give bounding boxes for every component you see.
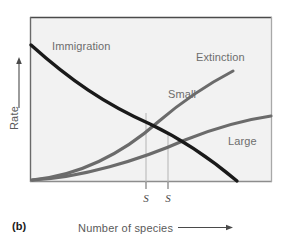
curve-label-immigration: Immigration [52, 40, 111, 52]
chart-canvas [0, 0, 289, 242]
x-axis-label: Number of species [78, 222, 173, 234]
panel-letter: (b) [12, 220, 26, 232]
figure-panel-b: Immigration Extinction Small Large S S R… [0, 0, 289, 242]
curve-label-extinction: Extinction [196, 51, 245, 63]
y-axis-label: Rate [8, 95, 20, 141]
arrow-up-icon [16, 57, 22, 64]
arrow-right-icon [226, 225, 233, 231]
curve-label-large: Large [228, 135, 257, 147]
x-tick-label-s1: S [139, 192, 153, 204]
curve-label-small: Small [168, 88, 196, 100]
x-tick-label-s2: S [161, 192, 175, 204]
